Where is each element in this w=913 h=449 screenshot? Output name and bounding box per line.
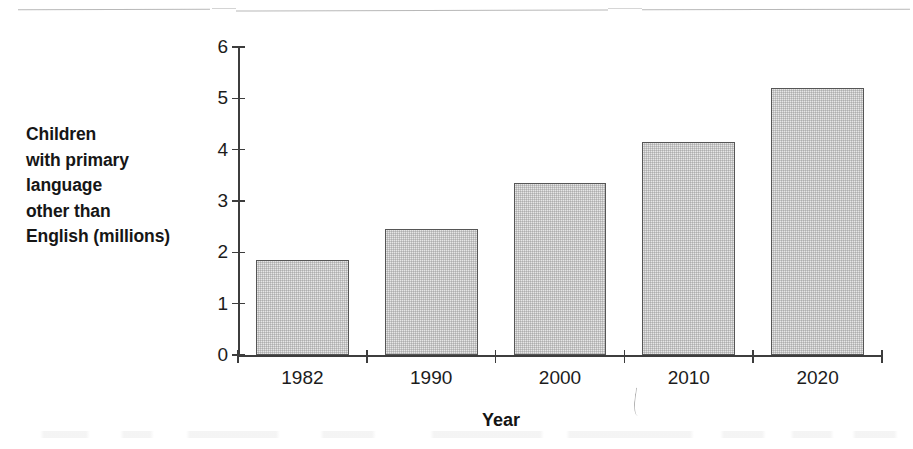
x-axis-tick: [366, 350, 368, 363]
x-axis-tick: [881, 350, 883, 363]
y-axis-label-line: with primary: [26, 148, 206, 174]
y-axis-line: [238, 47, 240, 357]
y-axis-tick-label: 3: [202, 190, 228, 212]
x-axis-tick: [752, 350, 754, 363]
bar: [642, 142, 735, 355]
y-axis-tick: [232, 98, 245, 100]
y-axis-tick: [232, 252, 245, 254]
y-axis-tick: [232, 303, 245, 305]
y-axis-tick-label: 0: [202, 344, 228, 366]
y-axis-tick: [232, 46, 245, 48]
y-axis-tick-label: 2: [202, 241, 228, 263]
scan-bleed-through: [0, 415, 913, 449]
scan-stray-mark: [632, 387, 646, 416]
y-axis-label-line: Children: [26, 122, 206, 148]
x-axis-line: [238, 355, 882, 357]
x-axis-tick-label: 1982: [281, 367, 323, 389]
scan-rule-segment: [236, 10, 608, 12]
scan-rule-segment: [18, 9, 210, 11]
y-axis-label-line: other than: [26, 199, 206, 225]
y-axis-tick: [232, 200, 245, 202]
x-axis-tick: [237, 350, 239, 363]
x-axis-tick: [495, 350, 497, 363]
bar: [385, 229, 478, 355]
scan-rule-segment: [608, 8, 642, 9]
bar-chart: Children with primary language other tha…: [0, 0, 913, 449]
bar: [256, 260, 349, 355]
y-axis-label-line: language: [26, 173, 206, 199]
x-axis-tick-label: 2020: [796, 367, 838, 389]
x-axis-tick: [624, 350, 626, 363]
y-axis-tick-label: 5: [202, 87, 228, 109]
scan-rule-segment: [212, 8, 236, 9]
y-axis-tick-label: 4: [202, 139, 228, 161]
y-axis-tick-label: 1: [202, 293, 228, 315]
scan-artifact-rules: [0, 0, 913, 24]
x-axis-tick-label: 1990: [410, 367, 452, 389]
x-axis-title: Year: [482, 410, 520, 431]
y-axis-label-line: English (millions): [26, 224, 206, 250]
bar: [771, 88, 864, 355]
y-axis-label: Children with primary language other tha…: [26, 122, 206, 250]
y-axis-tick-label: 6: [202, 36, 228, 58]
y-axis-tick: [232, 149, 245, 151]
x-axis-tick-label: 2010: [668, 367, 710, 389]
scan-rule-segment: [642, 9, 910, 10]
x-axis-tick-label: 2000: [539, 367, 581, 389]
bar: [514, 183, 607, 355]
